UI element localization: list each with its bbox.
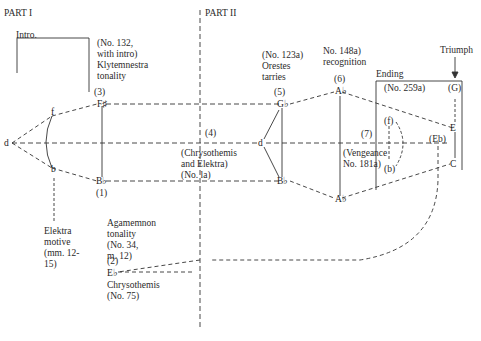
node-3-number: (3) xyxy=(94,87,105,98)
node-6-number: (6) xyxy=(334,74,345,85)
chrysothemis-label: Chrysothemis (No. 75) xyxy=(107,280,160,302)
ending-number: (No. 259a) xyxy=(384,83,425,94)
intro-bracket xyxy=(17,38,89,92)
node-b-flat-1: B♭ xyxy=(96,176,107,186)
node-4-number: (4) xyxy=(205,128,216,139)
node-e-flat-2: E♭ xyxy=(107,268,118,278)
node-c: C xyxy=(450,159,456,169)
intro-label: Intro. xyxy=(16,30,37,41)
annotation-no-123a: (No. 123a) Orestes tarries xyxy=(262,50,303,83)
diagram-lines xyxy=(0,0,481,341)
node-a-flat-top: A♭ xyxy=(335,86,347,96)
annotation-no-148a: No. 148a) recognition xyxy=(323,46,366,68)
node-d-mid: d xyxy=(258,138,263,148)
node-b-flat-2: B♭ xyxy=(277,176,288,186)
node-e: E xyxy=(450,123,456,133)
node-f-sharp: F♯ xyxy=(97,99,107,109)
part-ii-label: PART II xyxy=(205,8,236,19)
node-2-number: (2) xyxy=(107,256,118,267)
node-e-flat-paren: (Eb) xyxy=(429,134,446,145)
part-i-label: PART I xyxy=(4,8,32,19)
node-b-paren: (b) xyxy=(384,164,395,175)
elektra-motive-label: Elektra motive (mm. 12- 15) xyxy=(44,226,79,270)
node-d-left: d xyxy=(4,138,9,148)
node-b-left: b xyxy=(51,164,56,174)
triumph-label: Triumph xyxy=(440,45,473,56)
node-f-left: f xyxy=(51,107,54,117)
ending-label: Ending xyxy=(376,69,403,80)
ending-g: (G) xyxy=(448,83,461,94)
node-5-number: (5) xyxy=(274,87,285,98)
vengeance-label: (Vengeance No. 181a) xyxy=(343,148,387,170)
node-1-number: (1) xyxy=(96,188,107,199)
annotation-no-132: (No. 132, with intro) Klytemnestra tonal… xyxy=(97,38,148,82)
node-a-flat-bottom: A♭ xyxy=(335,194,347,204)
node-g-flat: G♭ xyxy=(277,99,289,109)
node-7-number: (7) xyxy=(361,129,372,140)
chrysothemis-elektra-label: (Chrysothemis and Elektra) (No. la) xyxy=(181,148,237,181)
node-f-paren: (f) xyxy=(384,116,394,127)
